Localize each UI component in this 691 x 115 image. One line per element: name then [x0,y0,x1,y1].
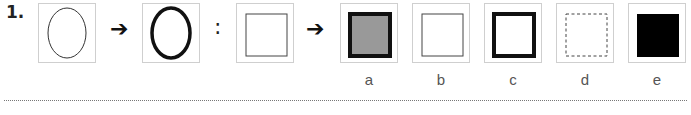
thin-square-icon [237,4,295,64]
dotted-divider [4,100,687,101]
option-box-a[interactable] [340,3,398,63]
query-box-thin-square [236,3,294,63]
arrow-icon: ➔ [110,16,128,41]
thin-square-icon [413,4,471,64]
thin-ellipse-icon [39,4,97,64]
black-filled-square-icon [629,4,687,64]
thick-ellipse-icon [143,4,201,64]
arrow-icon: ➔ [306,16,324,41]
thick-square-icon [485,4,543,64]
question-number: 1. [6,2,24,22]
option-label-e: e [628,71,686,88]
option-label-c: c [484,71,542,88]
dashed-square-icon [557,4,615,64]
option-box-e[interactable] [628,3,686,63]
option-box-b[interactable] [412,3,470,63]
option-box-c[interactable] [484,3,542,63]
option-label-d: d [556,71,614,88]
colon-separator: : [214,14,221,39]
premise-box-thick-ellipse [142,3,200,63]
option-box-d[interactable] [556,3,614,63]
option-label-b: b [412,71,470,88]
premise-box-thin-ellipse [38,3,96,63]
thick-gray-filled-square-icon [341,4,399,64]
option-label-a: a [340,71,398,88]
